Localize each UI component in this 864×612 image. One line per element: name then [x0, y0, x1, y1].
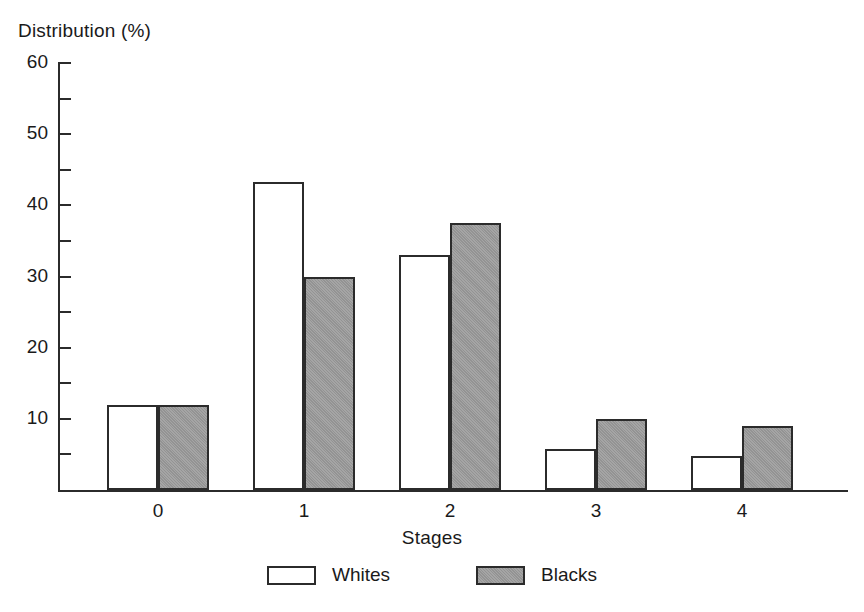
- y-tick-major: [58, 133, 71, 135]
- y-tick-major: [58, 62, 71, 64]
- x-tick-label-0: 0: [138, 500, 178, 522]
- y-tick-minor: [58, 311, 71, 313]
- bar-whites-stage-4: [691, 456, 742, 490]
- y-tick-label: 30: [8, 265, 48, 287]
- bar-whites-stage-1: [253, 182, 304, 490]
- x-tick-label-1: 1: [284, 500, 324, 522]
- y-tick-label: 50: [8, 122, 48, 144]
- y-tick-minor: [58, 169, 71, 171]
- chart-legend: WhitesBlacks: [0, 564, 864, 586]
- bar-whites-stage-0: [107, 405, 158, 490]
- y-tick-major: [58, 347, 71, 349]
- legend-entry-whites[interactable]: Whites: [267, 564, 390, 586]
- legend-label-blacks: Blacks: [541, 564, 597, 586]
- y-tick-label: 10: [8, 407, 48, 429]
- bar-whites-stage-2: [399, 255, 450, 490]
- x-tick-label-4: 4: [722, 500, 762, 522]
- legend-swatch-blacks: [476, 566, 525, 585]
- x-tick-label-3: 3: [576, 500, 616, 522]
- y-tick-major: [58, 204, 71, 206]
- y-tick-label: 20: [8, 336, 48, 358]
- y-tick-major: [58, 276, 71, 278]
- y-tick-minor: [58, 382, 71, 384]
- x-axis-title: Stages: [0, 527, 864, 549]
- x-tick-label-2: 2: [430, 500, 470, 522]
- y-tick-minor: [58, 240, 71, 242]
- y-tick-label: 60: [8, 51, 48, 73]
- bar-chart: Distribution (%) 605040302010 01234 Stag…: [0, 0, 864, 612]
- legend-entry-blacks[interactable]: Blacks: [476, 564, 597, 586]
- bar-blacks-stage-3: [596, 419, 647, 490]
- bar-blacks-stage-4: [742, 426, 793, 490]
- bar-blacks-stage-1: [304, 277, 355, 491]
- x-axis-line: [58, 490, 848, 492]
- y-tick-minor: [58, 453, 71, 455]
- y-tick-minor: [58, 98, 71, 100]
- bar-whites-stage-3: [545, 449, 596, 490]
- y-axis-title: Distribution (%): [18, 20, 151, 42]
- y-tick-label: 40: [8, 193, 48, 215]
- legend-label-whites: Whites: [332, 564, 390, 586]
- bar-blacks-stage-2: [450, 223, 501, 490]
- bar-blacks-stage-0: [158, 405, 209, 490]
- legend-swatch-whites: [267, 566, 316, 585]
- y-tick-major: [58, 418, 71, 420]
